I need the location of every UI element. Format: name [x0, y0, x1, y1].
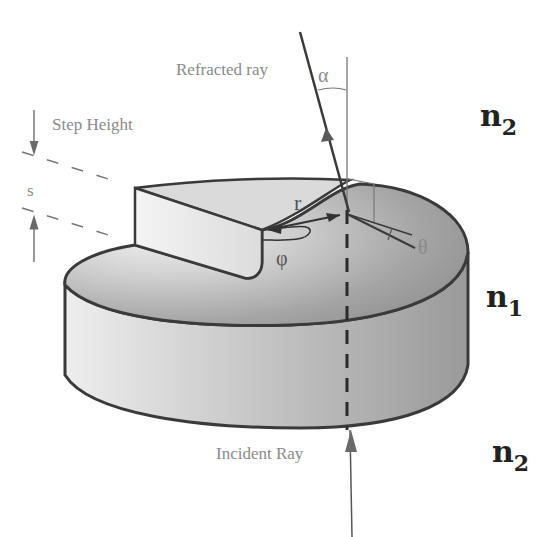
incident-arrowhead	[345, 430, 357, 452]
n2-top-label: n2	[480, 98, 517, 140]
refracted-ray-label: Refracted ray	[176, 60, 269, 79]
n2-bottom-label: n2	[492, 434, 529, 476]
refractive-index-labels: n2 n1 n2	[480, 98, 529, 476]
n1-label: n1	[486, 279, 523, 321]
phi-label: φ	[276, 247, 288, 270]
refraction-diagram: Step Height s Incident Ray Refracted ray…	[0, 0, 543, 537]
step-height-label: Step Height	[52, 115, 133, 134]
disk-body	[65, 178, 468, 428]
step-symbol-label: s	[27, 181, 34, 200]
alpha-label: α	[318, 64, 329, 86]
r-label: r	[294, 190, 302, 215]
incident-ray: Incident Ray	[216, 430, 357, 537]
theta-label: θ	[418, 236, 428, 258]
incident-ray-label: Incident Ray	[216, 444, 304, 463]
alpha-arc	[318, 88, 346, 90]
step-height-indicator: Step Height s	[22, 110, 133, 262]
